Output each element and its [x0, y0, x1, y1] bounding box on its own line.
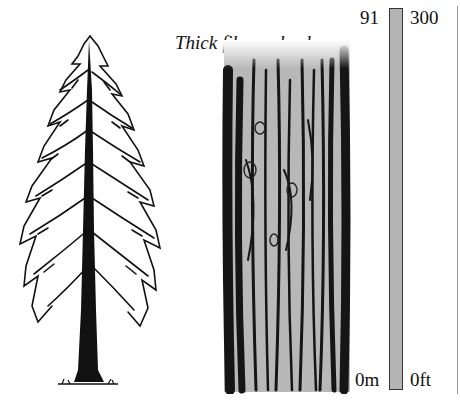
scale-imperial-bottom: 0ft [410, 370, 431, 390]
conifer-tree-illustration [8, 30, 168, 395]
height-scale-bar [389, 8, 403, 390]
divider-line [457, 6, 458, 394]
scale-metric-bottom: 0m [355, 370, 379, 390]
scale-imperial-top: 300 [410, 8, 439, 28]
scale-metric-top: 91 [360, 8, 379, 28]
bark-texture-illustration [220, 40, 354, 394]
